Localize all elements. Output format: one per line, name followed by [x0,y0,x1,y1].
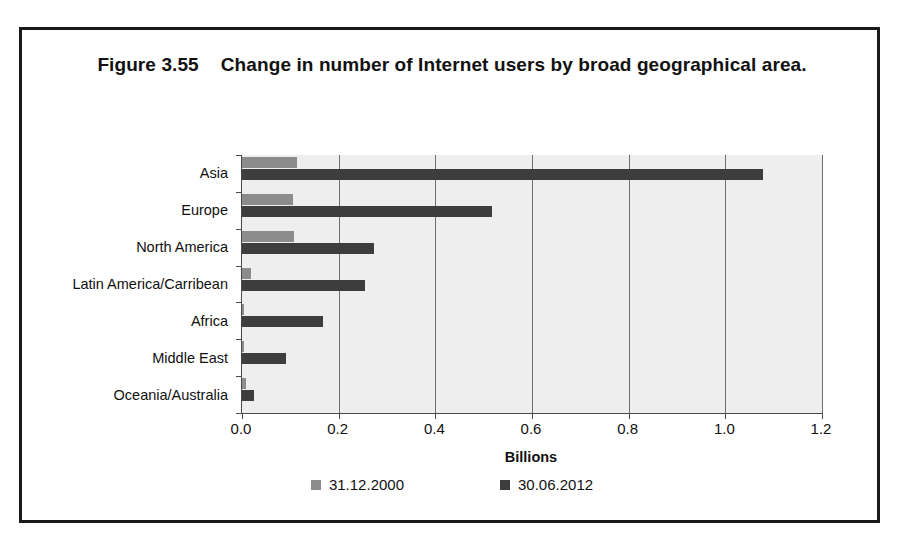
legend-item[interactable]: 30.06.2012 [500,476,593,493]
x-axis-title: Billions [241,449,821,465]
y-axis-label: North America [136,239,228,255]
bar [242,390,254,401]
bar [242,316,323,327]
bar-group [242,339,822,376]
bar [242,231,294,242]
x-axis-tick-label: 0.4 [424,420,445,437]
y-axis-label: Middle East [152,350,228,366]
x-axis-tick [242,413,243,419]
gridline [822,155,823,413]
x-axis-tick-labels: 0.00.20.40.60.81.01.2 [241,420,821,442]
figure-caption: Change in number of Internet users by br… [221,54,807,75]
bar [242,243,374,254]
y-axis-label: Oceania/Australia [114,387,228,403]
bar [242,194,293,205]
y-axis-label: Asia [200,165,228,181]
chart-plot-area [241,155,822,414]
x-axis-tick-label: 0.2 [327,420,348,437]
legend-item[interactable]: 31.12.2000 [311,476,404,493]
x-axis-tick [822,413,823,419]
x-axis-tick [629,413,630,419]
bar-group [242,266,822,303]
bar [242,341,244,352]
bar-group [242,229,822,266]
legend-label: 31.12.2000 [329,476,404,493]
x-axis-tick-label: 1.2 [811,420,832,437]
bar [242,169,763,180]
bar [242,157,297,168]
bar-group [242,155,822,192]
x-axis-tick-label: 0.8 [617,420,638,437]
bar [242,280,365,291]
x-axis-tick [435,413,436,419]
x-axis-tick-label: 0.6 [521,420,542,437]
figure-number: Figure 3.55 [97,54,198,75]
bar [242,268,251,279]
figure-frame: Figure 3.55Change in number of Internet … [19,27,880,523]
y-axis-labels: AsiaEuropeNorth AmericaLatin America/Car… [22,155,236,413]
x-axis-tick-label: 1.0 [714,420,735,437]
bar [242,304,244,315]
legend-label: 30.06.2012 [518,476,593,493]
x-axis-tick [339,413,340,419]
bar-group [242,302,822,339]
figure-title: Figure 3.55Change in number of Internet … [82,52,822,77]
bar [242,206,492,217]
chart-legend: 31.12.200030.06.2012 [122,476,782,493]
x-axis-tick [532,413,533,419]
y-axis-label: Latin America/Carribean [72,276,228,292]
x-axis-tick-label: 0.0 [231,420,252,437]
legend-swatch-icon [500,480,510,490]
bar [242,378,246,389]
bar-group [242,376,822,413]
y-axis-label: Europe [181,202,228,218]
y-axis-label: Africa [191,313,228,329]
bar [242,353,286,364]
x-axis-tick [725,413,726,419]
bar-group [242,192,822,229]
legend-swatch-icon [311,480,321,490]
